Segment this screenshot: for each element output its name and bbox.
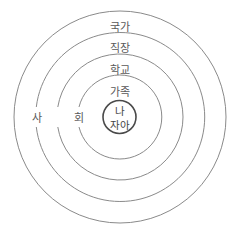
social-circles-diagram: 국가 직장 학교 가족 사 회 나 자아 (0, 0, 242, 233)
label-school: 학교 (110, 64, 130, 77)
label-self: 나 (115, 105, 125, 117)
label-workplace: 직장 (110, 42, 130, 55)
label-society-left: 사 (32, 112, 42, 125)
label-family: 가족 (110, 86, 130, 99)
label-country: 국가 (110, 21, 130, 34)
label-society-right: 회 (74, 112, 84, 125)
label-ego: 자아 (110, 119, 130, 131)
